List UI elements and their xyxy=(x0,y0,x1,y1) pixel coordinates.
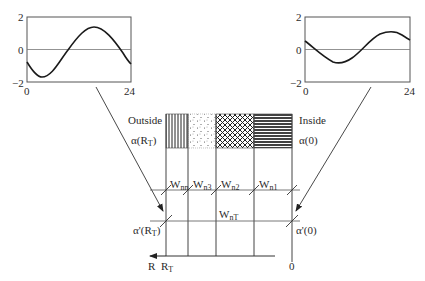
r-axis-label: R xyxy=(148,260,155,272)
layer-n2-fill xyxy=(216,114,254,148)
left-plot-ytick-2: 2 xyxy=(18,11,24,23)
layer-label-nn: Wnn xyxy=(170,178,188,194)
diagram-canvas xyxy=(0,0,425,281)
left-plot-ytick-neg2: −2 xyxy=(12,77,24,89)
left-plot-xtick-24: 24 xyxy=(124,85,135,97)
inside-label: Inside xyxy=(299,114,326,126)
layer-label-n3: Wn3 xyxy=(193,178,211,194)
right-plot-ytick-0: 0 xyxy=(296,44,302,56)
outside-label: Outside xyxy=(128,114,162,126)
alpha-prime-0-label: α'(0) xyxy=(296,224,317,236)
inside-arrow xyxy=(296,87,371,211)
total-layer-label: WnT xyxy=(219,208,238,224)
wall-layers xyxy=(166,114,292,148)
layer-n3-fill xyxy=(188,114,216,148)
outside-temperature-plot xyxy=(27,17,131,82)
layer-label-n1: Wn1 xyxy=(259,178,277,194)
inside-temperature-plot xyxy=(305,17,410,82)
zero-label: 0 xyxy=(289,260,295,272)
alpha-0-label: α(0) xyxy=(299,134,318,146)
layer-nn-fill xyxy=(166,114,188,148)
left-plot-ytick-0: 0 xyxy=(18,44,24,56)
layer-label-n2: Wn2 xyxy=(221,178,239,194)
right-plot-xtick-0: 0 xyxy=(303,85,309,97)
right-plot-xtick-24: 24 xyxy=(404,85,415,97)
left-plot-xtick-0: 0 xyxy=(24,85,30,97)
r-t-label: RT xyxy=(161,260,173,276)
right-plot-ytick-2: 2 xyxy=(296,11,302,23)
alpha-rt-label: α(RT) xyxy=(131,134,156,150)
alpha-prime-rt-label: α'(RT) xyxy=(133,224,160,240)
right-plot-ytick-neg2: −2 xyxy=(290,77,302,89)
layer-n1-fill xyxy=(254,114,292,148)
